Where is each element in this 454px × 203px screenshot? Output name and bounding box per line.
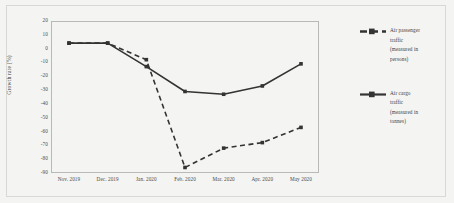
x-tick-label: Jan. 2020: [136, 177, 157, 182]
x-tick-label: Mar. 2020: [213, 177, 235, 182]
y-tick-label: 10: [43, 32, 48, 37]
legend-passenger-line1: Air passenger: [390, 26, 420, 36]
legend-label-air-cargo-traffic: Air cargo traffic (measured in tonnes): [390, 89, 418, 128]
data-point-marker: [67, 41, 71, 45]
legend-cargo-line2: traffic: [390, 98, 418, 108]
y-tick-label: -70: [41, 143, 48, 148]
y-tick-label: -80: [41, 157, 48, 162]
y-tick-label: -20: [41, 74, 48, 79]
legend-passenger-line2: traffic: [390, 36, 420, 46]
legend-passenger-line3: (measured in: [390, 45, 420, 55]
data-point-marker: [261, 141, 265, 145]
data-point-marker: [183, 90, 187, 94]
x-tick-label: Feb. 2020: [174, 177, 196, 182]
y-tick-label: 0: [45, 46, 48, 51]
y-tick-label: -90: [41, 170, 48, 175]
chart-figure: Growth rate (%) 20100-10-20-30-40-50-60-…: [0, 0, 454, 203]
x-tick-label: May 2020: [290, 177, 312, 182]
markers-air-cargo-traffic: [67, 41, 303, 96]
data-point-marker: [222, 92, 226, 96]
solid-line-icon: [360, 90, 386, 99]
markers-air-passenger-traffic: [67, 41, 303, 169]
y-tick-label: -40: [41, 101, 48, 106]
legend-cargo-line4: tonnes): [390, 117, 418, 127]
data-point-marker: [261, 84, 265, 88]
x-tick-label: Apr. 2020: [252, 177, 274, 182]
line-air-cargo-traffic: [69, 43, 301, 94]
x-tick-label: Dec. 2019: [97, 177, 119, 182]
y-tick-label: 20: [43, 18, 48, 23]
data-point-marker: [145, 58, 149, 62]
y-tick-label: -60: [41, 129, 48, 134]
series-layer: [51, 21, 319, 173]
legend-label-air-passenger-traffic: Air passenger traffic (measured in perso…: [390, 26, 420, 65]
series-air-cargo-traffic: [67, 41, 303, 96]
dashed-line-icon: [360, 27, 386, 36]
y-tick-label: -50: [41, 115, 48, 120]
data-point-marker: [106, 41, 110, 45]
y-tick-label: -10: [41, 60, 48, 65]
legend-item-air-passenger-traffic[interactable]: Air passenger traffic (measured in perso…: [360, 26, 446, 65]
legend-passenger-line4: persons): [390, 55, 420, 65]
chart-legend: Air passenger traffic (measured in perso…: [360, 26, 446, 151]
line-air-passenger-traffic: [69, 43, 301, 167]
legend-item-air-cargo-traffic[interactable]: Air cargo traffic (measured in tonnes): [360, 89, 446, 128]
series-air-passenger-traffic: [67, 41, 303, 169]
x-tick-label: Nov. 2019: [58, 177, 80, 182]
y-axis-tick-labels: 20100-10-20-30-40-50-60-70-80-90: [24, 21, 48, 173]
legend-cargo-line1: Air cargo: [390, 89, 418, 99]
data-point-marker: [299, 126, 303, 130]
data-point-marker: [183, 166, 187, 170]
data-point-marker: [299, 62, 303, 66]
legend-cargo-line3: (measured in: [390, 108, 418, 118]
data-point-marker: [222, 146, 226, 150]
y-tick-label: -30: [41, 87, 48, 92]
y-axis-title: Growth rate (%): [6, 30, 12, 120]
x-axis-tick-labels: Nov. 2019Dec. 2019Jan. 2020Feb. 2020Mar.…: [51, 177, 319, 189]
